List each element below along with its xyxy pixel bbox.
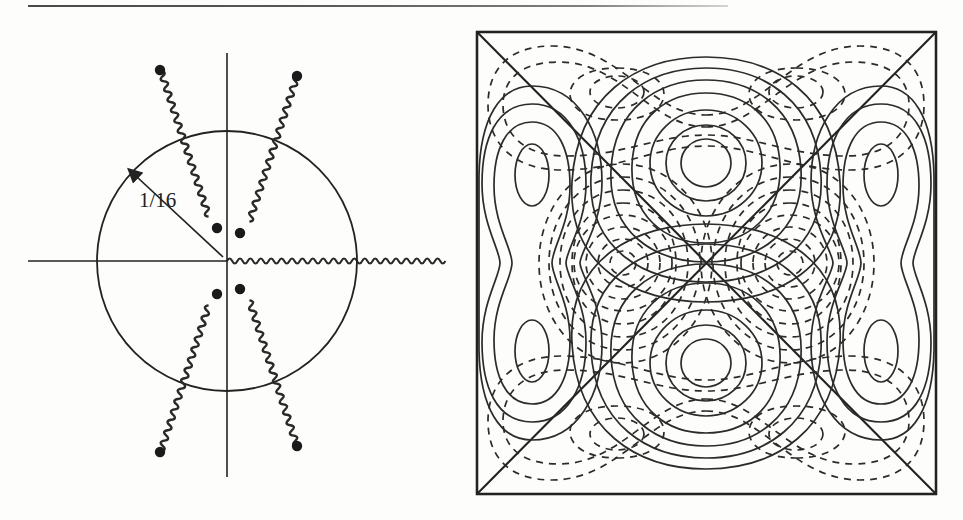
branch-point-dot [212, 289, 222, 299]
complex-plane-branch-cut-diagram: 1/16 [0, 0, 470, 520]
figure-stage: 1/16 [0, 0, 963, 520]
branch-point-dot [235, 228, 245, 238]
branch-point-dot [155, 65, 165, 75]
branch-cut-upper-right [249, 76, 297, 222]
nodal-diagonals [477, 32, 936, 494]
branch-point-dot [292, 71, 302, 81]
contour-plot [460, 10, 960, 515]
branch-point-dot [292, 441, 302, 451]
branch-point-dot [235, 284, 245, 294]
contour-group-right-inner-negative [701, 164, 874, 363]
branch-cut-lower-left [161, 305, 209, 451]
branch-point-dot [155, 447, 165, 457]
radius-label: 1/16 [139, 188, 176, 212]
contour-group-bottom-centre-positive [572, 224, 841, 469]
branch-point-dot [212, 223, 222, 233]
contour-group-left-inner-negative [539, 164, 712, 363]
contour-group-top-centre-positive [572, 57, 841, 302]
positive-real-axis-branch-cut [227, 259, 445, 264]
branch-cut-lower-right [249, 300, 297, 446]
